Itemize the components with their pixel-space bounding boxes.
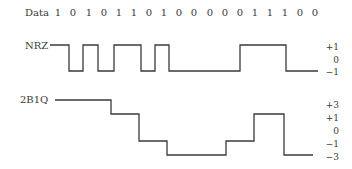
nrz-waveform xyxy=(50,45,318,71)
2b1q-waveform xyxy=(55,100,313,155)
waveforms xyxy=(0,0,352,169)
